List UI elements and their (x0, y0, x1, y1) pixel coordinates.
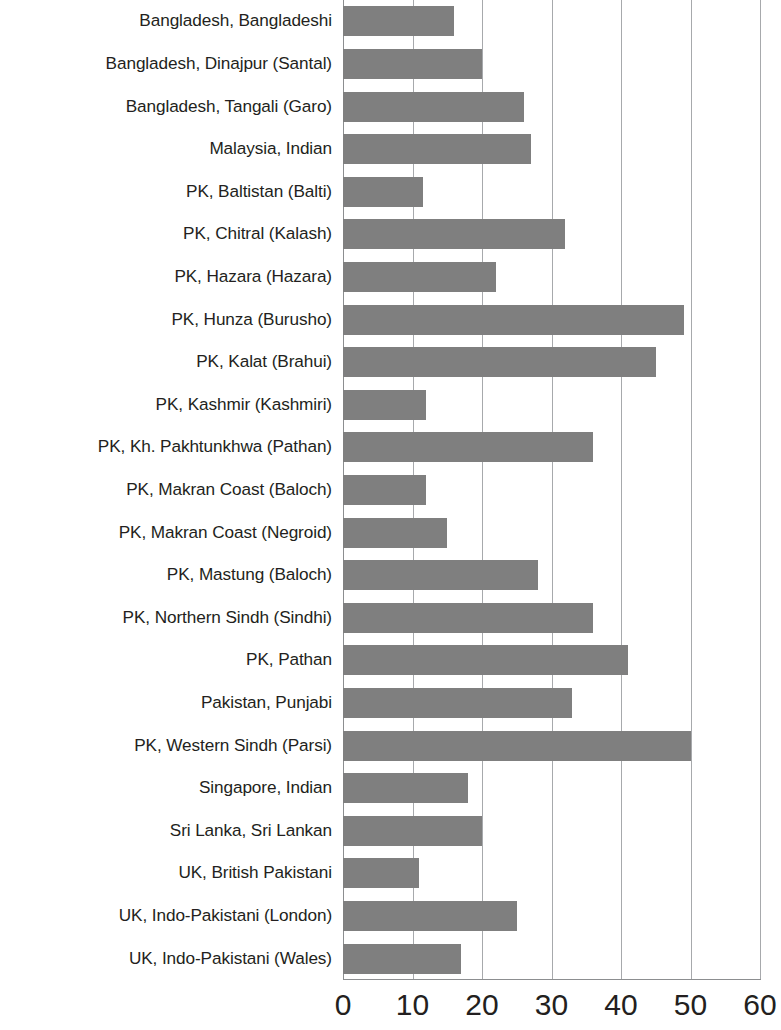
bar (343, 560, 538, 590)
x-tick-label-50: 50 (661, 988, 721, 1021)
category-label: PK, Kashmir (Kashmiri) (0, 396, 332, 413)
x-tick-label-60: 60 (730, 988, 781, 1021)
category-label: PK, Makran Coast (Negroid) (0, 524, 332, 541)
bar (343, 518, 447, 548)
bar (343, 49, 482, 79)
x-axis-baseline (343, 979, 761, 980)
category-label: PK, Hunza (Burusho) (0, 311, 332, 328)
category-label: PK, Hazara (Hazara) (0, 268, 332, 285)
category-label: PK, Western Sindh (Parsi) (0, 737, 332, 754)
x-tick-label-30: 30 (522, 988, 582, 1021)
category-label: PK, Northern Sindh (Sindhi) (0, 609, 332, 626)
x-tick-label-10: 10 (383, 988, 443, 1021)
bar (343, 432, 593, 462)
category-label: Sri Lanka, Sri Lankan (0, 822, 332, 839)
category-label: PK, Mastung (Baloch) (0, 566, 332, 583)
bar (343, 688, 572, 718)
category-label: PK, Pathan (0, 651, 332, 668)
bar (343, 816, 482, 846)
category-label-axis: Bangladesh, BangladeshiBangladesh, Dinaj… (0, 0, 332, 980)
gridline-60 (760, 0, 761, 980)
x-axis-tick-labels: 0102030405060 (0, 988, 767, 1030)
x-tick-label-20: 20 (452, 988, 512, 1021)
bar (343, 390, 426, 420)
bar (343, 177, 423, 207)
category-label: Bangladesh, Tangali (Garo) (0, 98, 332, 115)
category-label: Singapore, Indian (0, 779, 332, 796)
category-label: Malaysia, Indian (0, 140, 332, 157)
bar (343, 901, 517, 931)
plot-area (343, 0, 760, 980)
bar (343, 858, 419, 888)
gridline-30 (552, 0, 553, 980)
category-label: Bangladesh, Dinajpur (Santal) (0, 55, 332, 72)
category-label: UK, Indo-Pakistani (Wales) (0, 950, 332, 967)
bar (343, 645, 628, 675)
bar (343, 773, 468, 803)
bar (343, 92, 524, 122)
gridline-50 (691, 0, 692, 980)
x-tick-label-0: 0 (313, 988, 373, 1021)
bar (343, 262, 496, 292)
category-label: PK, Kalat (Brahui) (0, 353, 332, 370)
bar (343, 134, 531, 164)
bar (343, 731, 691, 761)
gridline-40 (621, 0, 622, 980)
bar (343, 475, 426, 505)
bar (343, 219, 565, 249)
bar (343, 6, 454, 36)
bar (343, 603, 593, 633)
x-tick-label-40: 40 (591, 988, 651, 1021)
category-label: Bangladesh, Bangladeshi (0, 12, 332, 29)
category-label: PK, Makran Coast (Baloch) (0, 481, 332, 498)
bar (343, 944, 461, 974)
bar (343, 347, 656, 377)
category-label: PK, Chitral (Kalash) (0, 225, 332, 242)
category-label: PK, Baltistan (Balti) (0, 183, 332, 200)
category-label: UK, British Pakistani (0, 864, 332, 881)
category-label: Pakistan, Punjabi (0, 694, 332, 711)
category-label: UK, Indo-Pakistani (London) (0, 907, 332, 924)
category-label: PK, Kh. Pakhtunkhwa (Pathan) (0, 438, 332, 455)
bar (343, 305, 684, 335)
